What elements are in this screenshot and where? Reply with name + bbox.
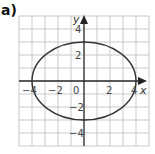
y-tick-neg2: −2 (69, 102, 84, 113)
coordinate-plane: x y −4 −2 0 2 4 4 2 −2 −4 (0, 0, 155, 154)
x-tick-2: 2 (106, 85, 112, 96)
x-tick-neg2: −2 (48, 85, 63, 96)
x-tick-0: 0 (73, 85, 79, 96)
y-tick-2: 2 (75, 50, 81, 61)
x-tick-neg4: −4 (22, 85, 37, 96)
y-tick-neg4: −4 (69, 128, 84, 139)
y-tick-4: 4 (75, 24, 81, 35)
x-axis-label: x (139, 84, 147, 97)
x-tick-4: 4 (131, 85, 137, 96)
